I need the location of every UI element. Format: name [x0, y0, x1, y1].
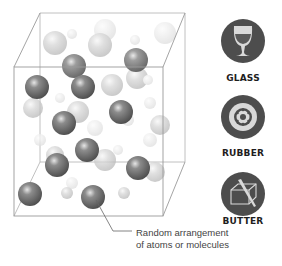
caption-line-1: Random arrangement [136, 227, 229, 239]
tire-icon [221, 95, 265, 139]
caption: Random arrangement of atoms or molecules [136, 227, 229, 251]
caption-line-2: of atoms or molecules [136, 239, 229, 251]
rubber-label: RUBBER [208, 148, 278, 158]
butter-label: BUTTER [208, 216, 278, 226]
wine-glass-icon [221, 19, 265, 63]
glass-label: GLASS [208, 73, 278, 83]
background-molecules [23, 19, 176, 199]
butter-block-icon [221, 172, 265, 216]
amorphous-solid-diagram: GLASS RUBBER BUTTER Random arrangement o… [0, 0, 282, 266]
